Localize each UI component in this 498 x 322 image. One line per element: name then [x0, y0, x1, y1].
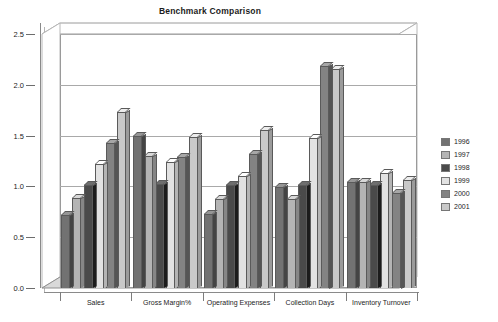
x-axis-category-label: Collection Days	[286, 299, 335, 306]
bar-groups	[60, 34, 417, 288]
y-tick-label: 2.0	[14, 80, 24, 89]
legend-label: 1998	[454, 164, 470, 171]
bar-side	[401, 191, 405, 288]
bar-side	[269, 128, 273, 288]
y-tick-label: 1.0	[14, 182, 24, 191]
bar-side	[153, 154, 157, 288]
bar-side	[93, 183, 97, 288]
bar-side	[224, 197, 228, 288]
bar-side	[81, 196, 85, 288]
x-axis-line	[44, 292, 419, 293]
bar-side	[356, 180, 360, 288]
y-tick-mark	[26, 85, 35, 86]
y-tick-mark	[26, 186, 35, 187]
legend-item[interactable]: 1997	[441, 148, 497, 161]
y-tick-label: 1.5	[14, 131, 24, 140]
x-tick-mark	[203, 292, 204, 301]
legend: 199619971998199920002001	[441, 135, 497, 213]
bar[interactable]	[61, 215, 70, 288]
x-axis-category-label: Gross Margin%	[143, 299, 191, 306]
bar-face	[204, 214, 213, 288]
bar-side	[115, 141, 119, 288]
bar-face	[275, 187, 284, 288]
bar-side	[198, 135, 202, 288]
x-tick-mark	[274, 292, 275, 301]
legend-item[interactable]: 1998	[441, 161, 497, 174]
bar-side	[247, 174, 251, 288]
legend-item[interactable]: 1996	[441, 135, 497, 148]
bar-side	[164, 182, 168, 288]
bar-side	[284, 185, 288, 288]
legend-swatch	[441, 164, 450, 172]
bar-group	[346, 34, 417, 288]
legend-label: 2000	[454, 190, 470, 197]
bar-side	[70, 213, 74, 288]
bar-group	[60, 34, 131, 288]
x-axis-category-label: Operating Expenses	[207, 299, 270, 306]
bar-side	[378, 183, 382, 288]
bar-side	[296, 197, 300, 288]
bar-side	[340, 67, 344, 288]
bar-face	[61, 215, 70, 288]
x-tick-mark	[60, 292, 61, 301]
y-tick-mark	[26, 34, 35, 35]
x-axis-category-label: Inventory Turnover	[352, 299, 410, 306]
bar-group	[203, 34, 274, 288]
legend-swatch	[441, 177, 450, 185]
legend-swatch	[441, 190, 450, 198]
y-axis-line	[40, 23, 41, 288]
bar-side	[389, 171, 393, 288]
bar-side	[175, 160, 179, 288]
bar-side	[142, 134, 146, 288]
bar-side	[412, 178, 416, 288]
bar[interactable]	[204, 214, 213, 288]
bar-side	[258, 152, 262, 288]
bar-side	[126, 110, 130, 288]
bar-side	[329, 64, 333, 288]
legend-swatch	[441, 138, 450, 146]
bar[interactable]	[133, 136, 142, 288]
y-tick-label: 0.5	[14, 233, 24, 242]
legend-label: 1999	[454, 177, 470, 184]
bar-side	[104, 162, 108, 288]
bar[interactable]	[275, 187, 284, 288]
legend-item[interactable]: 2001	[441, 200, 497, 213]
legend-item[interactable]: 2000	[441, 187, 497, 200]
legend-label: 1997	[454, 151, 470, 158]
chart-canvas: Benchmark Comparison 0.00.51.01.52.02.5 …	[0, 0, 498, 322]
plot-area	[60, 34, 417, 288]
bar-side	[213, 212, 217, 288]
y-tick-mark	[26, 136, 35, 137]
legend-label: 2001	[454, 203, 470, 210]
bar-side	[367, 180, 371, 288]
legend-item[interactable]: 1999	[441, 174, 497, 187]
bar-side	[186, 155, 190, 288]
chart-title: Benchmark Comparison	[0, 6, 420, 16]
bar-group	[274, 34, 345, 288]
x-tick-mark	[346, 292, 347, 301]
y-tick-mark	[26, 237, 35, 238]
bar-side	[235, 183, 239, 288]
legend-swatch	[441, 151, 450, 159]
x-axis-category-label: Sales	[87, 299, 105, 306]
x-tick-mark	[417, 292, 418, 301]
legend-swatch	[441, 203, 450, 211]
legend-label: 1996	[454, 138, 470, 145]
bar[interactable]	[347, 182, 356, 288]
y-tick-label: 2.5	[14, 30, 24, 39]
x-axis: SalesGross Margin%Operating ExpensesColl…	[0, 288, 498, 322]
bar-face	[347, 182, 356, 288]
x-tick-mark	[131, 292, 132, 301]
bar-group	[131, 34, 202, 288]
bar-face	[133, 136, 142, 288]
bar-side	[307, 183, 311, 288]
bar-side	[318, 136, 322, 288]
